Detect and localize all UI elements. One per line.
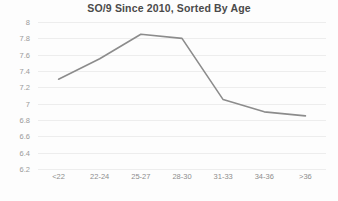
y-axis-tick-label: 8 — [26, 18, 30, 27]
x-axis-tick-label: 34-36 — [255, 172, 274, 181]
gridline — [38, 169, 326, 170]
y-axis-tick-label: 6.6 — [20, 132, 30, 141]
chart-container: SO/9 Since 2010, Sorted By Age 6.26.46.6… — [0, 0, 338, 201]
x-axis-tick-label: <22 — [52, 172, 65, 181]
x-axis-tick-label: 28-30 — [172, 172, 191, 181]
line-series — [38, 22, 326, 169]
y-axis-tick-label: 7 — [26, 99, 30, 108]
y-axis-tick-label: 7.2 — [20, 83, 30, 92]
y-axis-tick-label: 6.4 — [20, 148, 30, 157]
chart-title: SO/9 Since 2010, Sorted By Age — [0, 2, 338, 14]
y-axis-tick-label: 6.2 — [20, 165, 30, 174]
y-axis-tick-label: 6.8 — [20, 116, 30, 125]
y-axis-tick-label: 7.8 — [20, 34, 30, 43]
x-axis-tick-label: 25-27 — [131, 172, 150, 181]
x-axis-tick-label: >36 — [299, 172, 312, 181]
y-axis: 6.26.46.66.877.27.47.67.88 — [0, 22, 34, 169]
x-axis-tick-label: 31-33 — [214, 172, 233, 181]
y-axis-tick-label: 7.6 — [20, 50, 30, 59]
plot-area — [38, 22, 326, 169]
x-axis-tick-label: 22-24 — [90, 172, 109, 181]
y-axis-tick-label: 7.4 — [20, 67, 30, 76]
series-line — [59, 34, 306, 116]
x-axis: <2222-2425-2728-3031-3334-36>36 — [38, 172, 326, 186]
